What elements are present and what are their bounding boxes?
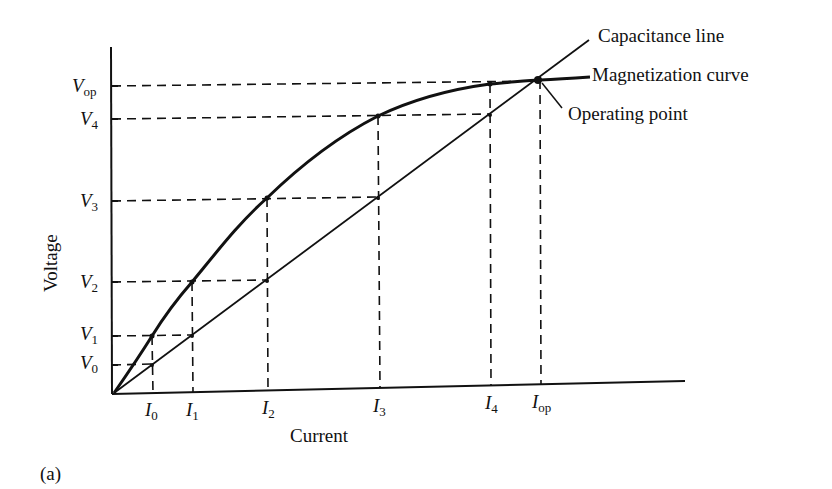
y-tick-v4: V4 <box>80 108 99 132</box>
x-axis-label: Current <box>290 425 349 446</box>
operating-point-marker <box>534 76 542 84</box>
y-tick-vop: Vop <box>72 75 97 99</box>
x-tick-labels: I0 I1 I2 I3 I4 Iop <box>144 391 551 423</box>
x-tick-i3: I3 <box>372 395 386 419</box>
y-axis-label: Voltage <box>40 234 61 292</box>
capacitance-line <box>114 40 589 393</box>
x-tick-i4: I4 <box>484 392 498 416</box>
y-tick-v2: V2 <box>80 271 98 295</box>
y-axis <box>111 47 112 394</box>
operating-point-label: Operating point <box>568 103 689 124</box>
capacitance-line-label: Capacitance line <box>598 25 724 46</box>
y-tick-labels: Vop V4 V3 V2 V1 V0 <box>72 75 99 376</box>
magnetization-curve <box>114 77 590 393</box>
y-tick-v1: V1 <box>80 323 98 347</box>
magnetization-curve-label: Magnetization curve <box>592 64 749 85</box>
y-tick-v0: V0 <box>80 352 98 376</box>
x-tick-iop: Iop <box>531 391 551 415</box>
y-tick-v3: V3 <box>80 190 98 214</box>
vertical-guides <box>152 80 541 393</box>
operating-point-leader <box>542 83 562 108</box>
x-tick-i2: I2 <box>261 397 275 421</box>
panel-label: (a) <box>40 463 61 485</box>
x-axis <box>112 381 685 394</box>
x-tick-i1: I1 <box>185 399 199 423</box>
x-tick-i0: I0 <box>144 399 158 423</box>
self-excitation-diagram: Vop V4 V3 V2 V1 V0 I0 I1 I2 I3 I4 Iop Cu… <box>0 0 832 489</box>
